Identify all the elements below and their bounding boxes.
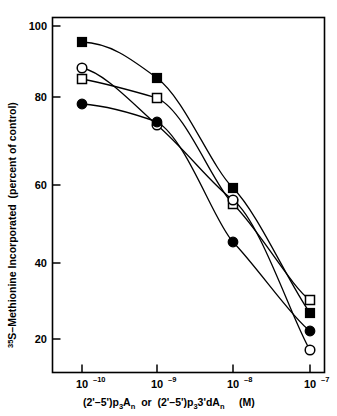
x-tick-mantissa: 10	[151, 378, 163, 390]
xlabel-units: (M)	[239, 396, 255, 408]
marker-open-square	[306, 296, 315, 305]
x-axis-ticks	[82, 365, 310, 373]
xlabel-seg1: (2'–5')p	[83, 396, 119, 408]
data-curves	[82, 42, 310, 350]
curve-open-square	[82, 79, 310, 300]
marker-filled-square	[153, 74, 162, 83]
marker-open-circle	[77, 63, 87, 73]
x-tick-label: 10 –10	[76, 375, 106, 390]
ylabel-paren: (percent of control)	[6, 102, 18, 198]
marker-open-square	[153, 94, 162, 103]
figure-panel: 100 80 60 40 20 10 –10 10 –9 10 –	[0, 0, 337, 416]
marker-open-circle	[305, 345, 315, 355]
plot-frame	[53, 18, 325, 373]
x-tick-exponent: –9	[168, 375, 176, 384]
xlabel-connector: or	[141, 396, 152, 408]
y-axis-ticks	[53, 26, 61, 339]
x-tick-mantissa: 10	[76, 378, 88, 390]
x-tick-label: 10 –7	[304, 375, 329, 390]
marker-filled-circle	[305, 326, 315, 336]
marker-filled-square	[306, 309, 315, 318]
marker-filled-circle	[152, 117, 162, 127]
ylabel-superscript: 35	[6, 340, 15, 348]
x-tick-label: 10 –9	[151, 375, 176, 390]
x-axis-title: (2'–5')p3An or (2'–5')p33'dAn (M)	[83, 396, 255, 411]
x-tick-mantissa: 10	[304, 378, 316, 390]
curve-filled-circle	[82, 104, 310, 331]
curve-open-circle	[82, 68, 310, 350]
y-tick-label: 40	[35, 257, 47, 269]
svg-text:35S–Methionine Incorporated (: 35S–Methionine Incorporated (percent of …	[6, 102, 18, 348]
y-tick-label: 20	[35, 333, 47, 345]
svg-text:(2'–5')p3An or (2'–5')p33'dA: (2'–5')p3An or (2'–5')p33'dAn (M)	[83, 396, 255, 411]
marker-open-square	[78, 75, 87, 84]
chart-svg: 100 80 60 40 20 10 –10 10 –9 10 –	[0, 0, 337, 416]
x-tick-exponent: –7	[321, 375, 329, 384]
marker-filled-circle	[77, 99, 87, 109]
ylabel-main: S–Methionine Incorporated	[6, 204, 18, 339]
marker-filled-circle	[228, 237, 238, 247]
x-tick-mantissa: 10	[227, 378, 239, 390]
y-axis-tick-labels: 100 80 60 40 20	[29, 20, 47, 345]
x-tick-label: 10 –8	[227, 375, 252, 390]
y-tick-label: 60	[35, 179, 47, 191]
marker-filled-square	[78, 38, 87, 47]
y-tick-label: 100	[29, 20, 47, 32]
xlabel-seg4: 3'dA	[198, 396, 221, 408]
x-tick-exponent: –10	[93, 375, 106, 384]
marker-open-circle	[228, 195, 238, 205]
x-tick-exponent: –8	[244, 375, 252, 384]
x-axis-tick-labels: 10 –10 10 –9 10 –8 10 –7	[76, 375, 329, 390]
marker-filled-square	[229, 184, 238, 193]
xlabel-seg3: (2'–5')p	[157, 396, 193, 408]
y-axis-title: 35S–Methionine Incorporated (percent of …	[6, 102, 18, 348]
y-tick-label: 80	[35, 91, 47, 103]
